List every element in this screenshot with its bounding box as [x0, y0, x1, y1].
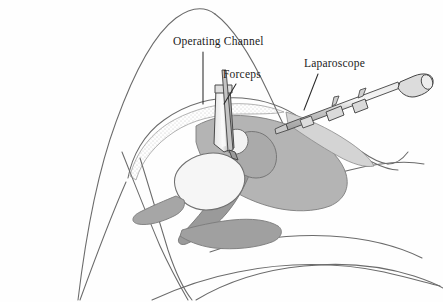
laparoscope[interactable] [275, 73, 435, 134]
leader-line-laparoscope [304, 74, 318, 110]
thigh-back-curve [196, 264, 443, 300]
label-operating-channel: Operating Channel [173, 36, 264, 48]
label-forceps: Forceps [223, 69, 261, 81]
label-laparoscope: Laparoscope [304, 58, 365, 70]
pubic-bone [133, 196, 185, 225]
pelvic-soft-tissue [130, 104, 374, 249]
buttock-lower-curve [152, 265, 440, 301]
illustration-canvas: Operating Channel Forceps Laparoscope [0, 0, 443, 302]
